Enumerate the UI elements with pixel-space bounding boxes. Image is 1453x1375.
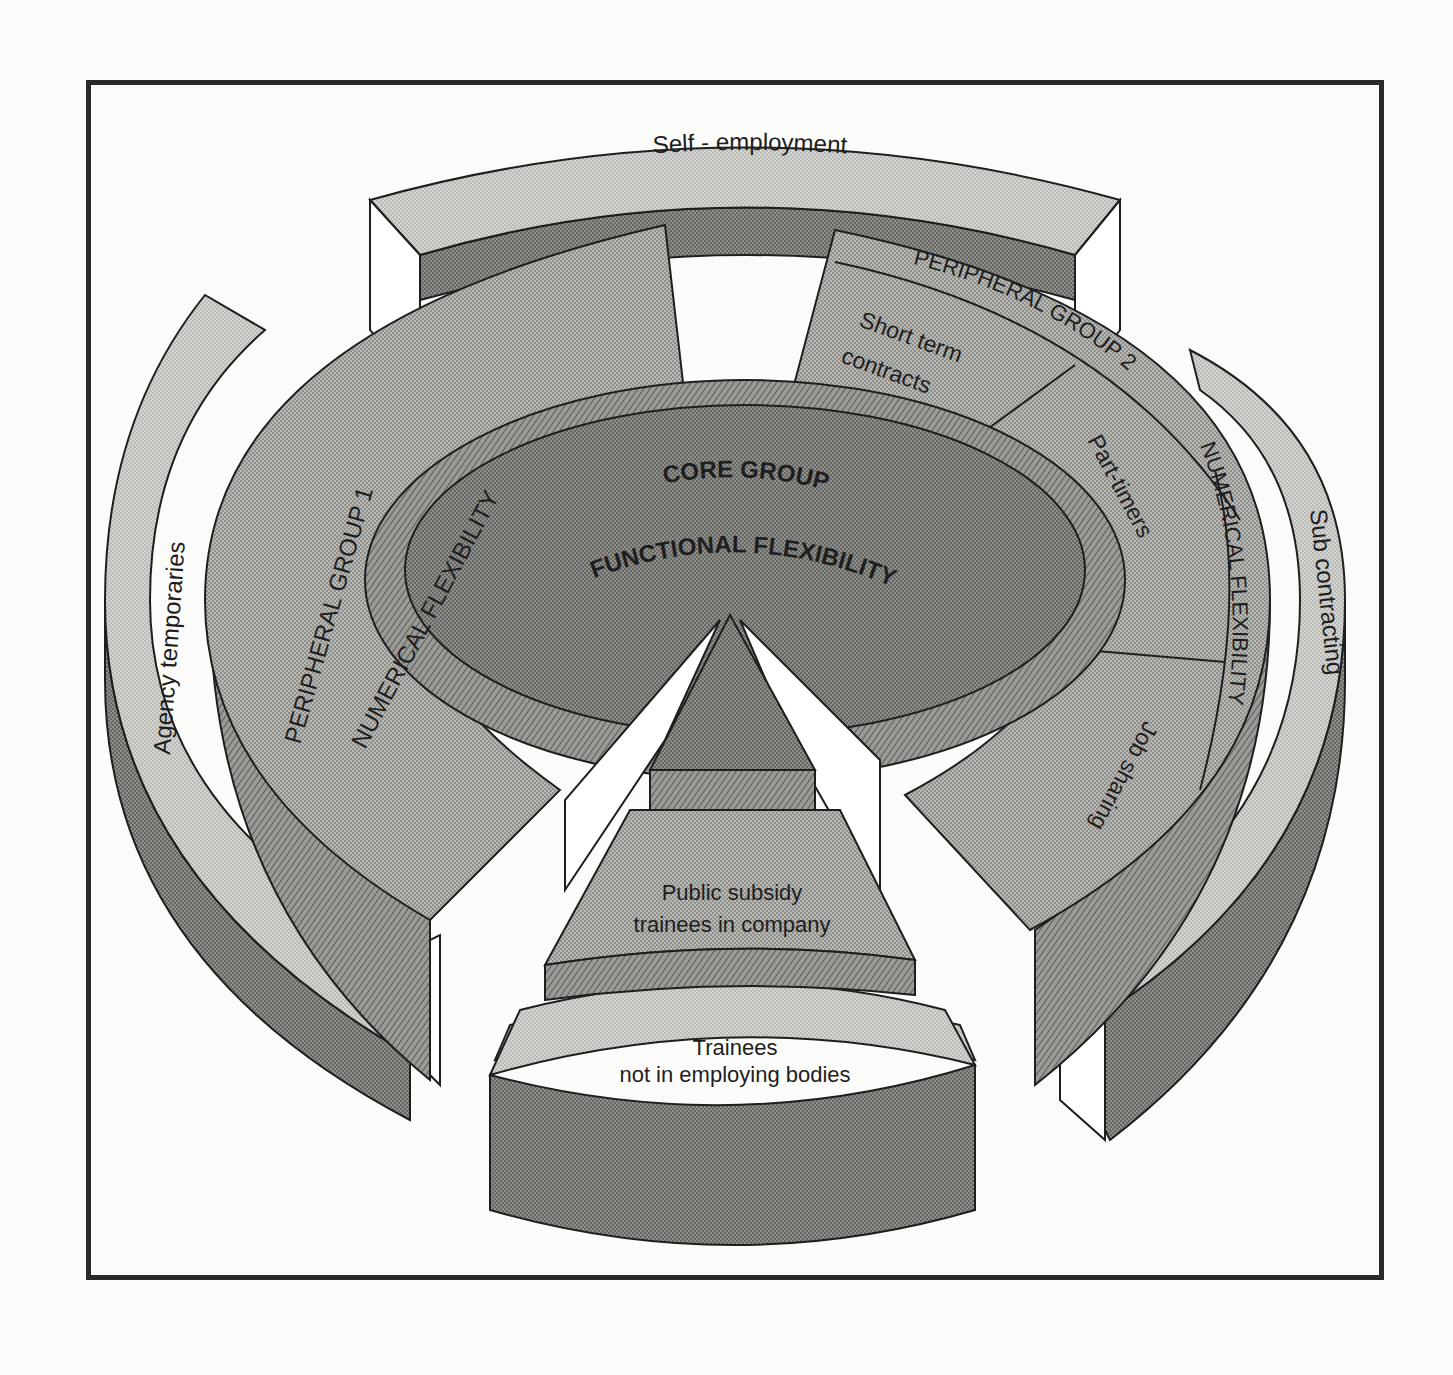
label-trainees-in-company: trainees in company bbox=[634, 912, 831, 937]
label-self-employment: Self - employment bbox=[652, 128, 849, 159]
label-agency-temporaries: Agency temporaries bbox=[148, 541, 190, 756]
label-trainees: Trainees bbox=[693, 1035, 778, 1060]
label-public-subsidy: Public subsidy bbox=[662, 880, 803, 905]
flexible-firm-diagram: Self - employment Agency temporaries Sub… bbox=[0, 0, 1453, 1375]
label-not-in-employing-bodies: not in employing bodies bbox=[619, 1062, 850, 1087]
